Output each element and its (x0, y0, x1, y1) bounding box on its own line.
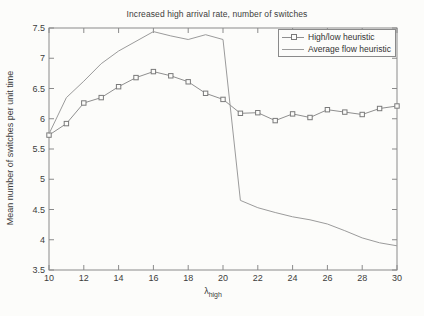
x-tick-label: 12 (79, 273, 89, 283)
data-point-marker (238, 111, 242, 115)
data-point-marker (377, 106, 381, 110)
x-tick-label: 22 (253, 273, 263, 283)
data-point-marker (360, 112, 364, 116)
data-point-marker (290, 112, 294, 116)
x-tick-label: 10 (44, 273, 54, 283)
matlab-figure: Increased high arrival rate, number of s… (0, 0, 424, 316)
y-tick-label: 4 (40, 235, 45, 245)
x-tick-label: 30 (392, 273, 402, 283)
data-point-marker (203, 91, 207, 95)
x-tick-label: 24 (288, 273, 298, 283)
x-tick-label: 28 (357, 273, 367, 283)
data-point-marker (64, 121, 68, 125)
x-axis-label-subscript: high (209, 291, 222, 298)
data-point-marker (343, 110, 347, 114)
data-point-marker (151, 69, 155, 73)
x-axis-label: λhigh (183, 286, 243, 298)
x-tick-label: 14 (114, 273, 124, 283)
x-tick-label: 20 (218, 273, 228, 283)
data-point-marker (169, 74, 173, 78)
legend-sample-avgflow (282, 44, 304, 54)
data-point-marker (82, 101, 86, 105)
data-point-marker (221, 97, 225, 101)
y-tick-label: 7 (40, 53, 45, 63)
data-point-marker (395, 104, 399, 108)
legend-item-highlow: High/low heuristic (279, 31, 395, 43)
legend-item-avgflow: Average flow heuristic (279, 43, 395, 55)
legend-square-marker-icon (291, 34, 297, 40)
y-tick-label: 5.5 (32, 144, 45, 154)
x-tick-label: 16 (148, 273, 158, 283)
data-point-marker (116, 85, 120, 89)
data-point-marker (325, 108, 329, 112)
data-point-marker (186, 80, 190, 84)
data-point-marker (134, 75, 138, 79)
data-point-marker (308, 115, 312, 119)
y-tick-label: 6.5 (32, 84, 45, 94)
series-line-avgflow (49, 32, 397, 246)
y-tick-label: 7.5 (32, 23, 45, 33)
y-tick-label: 6 (40, 114, 45, 124)
legend-sample-highlow (282, 32, 304, 42)
y-tick-label: 3.5 (32, 265, 45, 275)
x-tick-label: 18 (183, 273, 193, 283)
data-point-marker (256, 111, 260, 115)
legend: High/low heuristic Average flow heuristi… (278, 29, 396, 57)
y-tick-label: 4.5 (32, 205, 45, 215)
y-tick-label: 5 (40, 174, 45, 184)
legend-label: High/low heuristic (308, 32, 375, 42)
legend-label: Average flow heuristic (308, 44, 391, 54)
x-tick-label: 26 (322, 273, 332, 283)
data-point-marker (273, 118, 277, 122)
series-line-highlow (49, 72, 397, 136)
data-point-marker (99, 95, 103, 99)
legend-line-icon (282, 49, 304, 50)
